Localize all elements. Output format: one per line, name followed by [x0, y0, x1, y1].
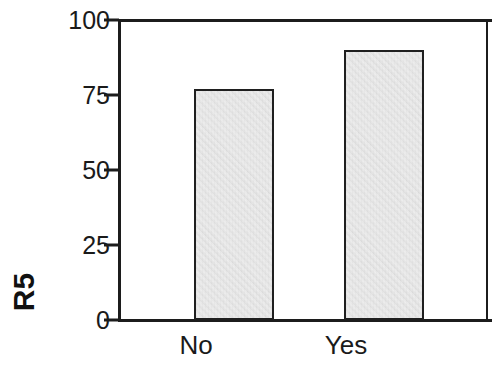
y-tick-mark-25: [104, 244, 119, 247]
y-tick-mark-100: [104, 19, 119, 22]
y-tick-label-0: 0: [44, 308, 110, 333]
y-axis-title-text: R5: [7, 273, 41, 311]
bar-yes: [344, 50, 424, 320]
y-tick-mark-75: [104, 94, 119, 97]
bar-chart: R5 100 75 50 25 0 No Yes: [0, 0, 492, 369]
y-axis-title: R5: [2, 262, 46, 322]
y-tick-mark-0: [104, 319, 119, 322]
x-tick-label-no: No: [156, 332, 236, 358]
y-tick-label-75: 75: [44, 83, 110, 108]
plot-area: [118, 20, 492, 320]
y-tick-label-100: 100: [44, 8, 110, 33]
bar-no: [194, 89, 274, 320]
y-tick-label-50: 50: [44, 158, 110, 183]
y-tick-label-25: 25: [44, 233, 110, 258]
x-tick-label-yes: Yes: [306, 332, 386, 358]
y-tick-label-group: 100 75 50 25 0: [44, 0, 110, 369]
y-tick-mark-50: [104, 169, 119, 172]
